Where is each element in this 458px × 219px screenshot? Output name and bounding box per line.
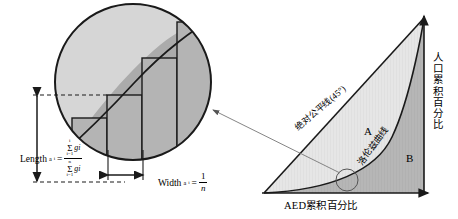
length-formula-numerator: i Σ i=1 gi [64,139,82,158]
width-formula-subscript: a [183,179,186,186]
length-formula-denominator: n Σ i=1 gi [64,158,82,178]
bar-3 [142,58,177,180]
length-formula-name: Length [20,154,47,164]
numerator-summation: i Σ i=1 [66,139,73,157]
denominator-sigma-lower: i=1 [66,173,73,178]
length-formula-subscript2: i [54,156,55,161]
width-formula-numerator: 1 [199,172,208,182]
denominator-term: gi [74,164,80,173]
y-axis-label: 人口累积百分比 [429,52,444,130]
numerator-sigma-lower: i=1 [66,152,73,157]
region-b-label: B [406,152,413,164]
region-a-label: A [364,125,372,137]
width-formula-name: Width [158,178,181,188]
width-formula: Widthai = 1 n [158,172,207,193]
figure-canvas: AED累积百分比 人口累积百分比 绝对公平线(45°) 洛伦兹曲线 A B Le… [0,0,458,219]
length-formula-subscript: a [49,155,52,162]
width-formula-subscript2: i [188,180,189,185]
bar-4 [177,22,212,180]
width-formula-fraction: 1 n [199,172,208,193]
denominator-summation: n Σ i=1 [66,160,73,178]
bar-2 [107,95,142,180]
numerator-term: gi [74,143,80,152]
width-formula-equals: = [192,178,197,188]
length-formula-equals: = [57,154,62,164]
x-axis-label: AED累积百分比 [284,197,357,212]
length-formula-fraction: i Σ i=1 gi n Σ i=1 gi [64,139,82,178]
magnifier-layer [0,0,458,219]
width-formula-denominator: n [199,182,208,193]
length-formula: Lengthai = i Σ i=1 gi n Σ i=1 gi [20,139,82,178]
